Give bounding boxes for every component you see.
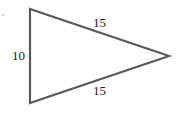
stray-dot	[2, 14, 4, 16]
side-label-top: 15	[93, 15, 106, 30]
triangle-diagram: 15 10 15	[0, 0, 179, 131]
side-label-left: 10	[12, 48, 25, 63]
side-label-bottom: 15	[93, 83, 106, 98]
